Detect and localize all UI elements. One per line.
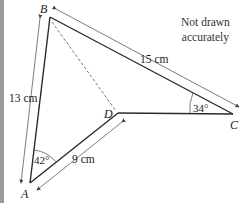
- edge-da: [30, 113, 118, 183]
- length-label-bc: 15 cm: [140, 54, 168, 66]
- point-label-d: D: [104, 108, 113, 120]
- not-drawn-accurately-note: Not drawn accurately: [181, 15, 230, 45]
- angle-label-a: 42°: [34, 155, 49, 166]
- edge-cd: [118, 113, 233, 114]
- point-label-b: B: [40, 3, 47, 15]
- point-label-c: C: [230, 119, 238, 131]
- note-line-2: accurately: [181, 30, 230, 45]
- angle-label-c: 34°: [193, 103, 208, 114]
- note-line-1: Not drawn: [181, 15, 230, 30]
- length-label-ab: 13 cm: [9, 93, 37, 105]
- length-label-ad: 9 cm: [72, 154, 95, 166]
- point-label-a: A: [21, 188, 28, 200]
